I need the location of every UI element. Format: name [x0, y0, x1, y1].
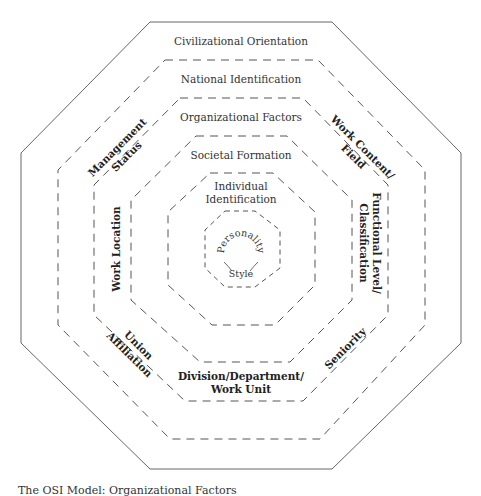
diagram-canvas: Civilizational Orientation National Iden… [0, 0, 481, 496]
label-personality: Personality [215, 227, 267, 254]
svg-text:Work Location: Work Location [110, 206, 122, 293]
svg-text:Functional Level/: Functional Level/ [371, 192, 383, 294]
svg-text:Seniority: Seniority [322, 324, 369, 371]
label-division-line2: Work Unit [210, 383, 271, 395]
label-functional-level: Functional Level/ Classification [358, 192, 383, 294]
figure-caption: The OSI Model: Organizational Factors [18, 484, 237, 496]
svg-text:Classification: Classification [358, 203, 370, 283]
octagon-societal [131, 136, 352, 362]
label-national-identification: National Identification [181, 73, 302, 85]
label-seniority: Seniority [322, 324, 369, 371]
label-organizational-factors: Organizational Factors [180, 111, 302, 123]
label-division-line1: Division/Department/ [178, 370, 304, 382]
personality-arc-right [250, 262, 258, 271]
label-work-content-field: Work Content/ Field [319, 112, 398, 191]
label-work-location: Work Location [110, 206, 122, 293]
svg-text:Work Content/: Work Content/ [328, 112, 398, 182]
label-union-affiliation: Union Affiliation [104, 319, 164, 379]
label-civilizational-orientation: Civilizational Orientation [174, 35, 308, 47]
label-management-status: Management Status [86, 115, 158, 187]
outer-octagon-civilizational [21, 22, 461, 469]
label-individual-line2: Identification [205, 193, 276, 205]
label-individual-line1: Individual [214, 180, 268, 192]
label-style-text: Style [229, 268, 254, 279]
label-societal-formation: Societal Formation [190, 149, 291, 161]
